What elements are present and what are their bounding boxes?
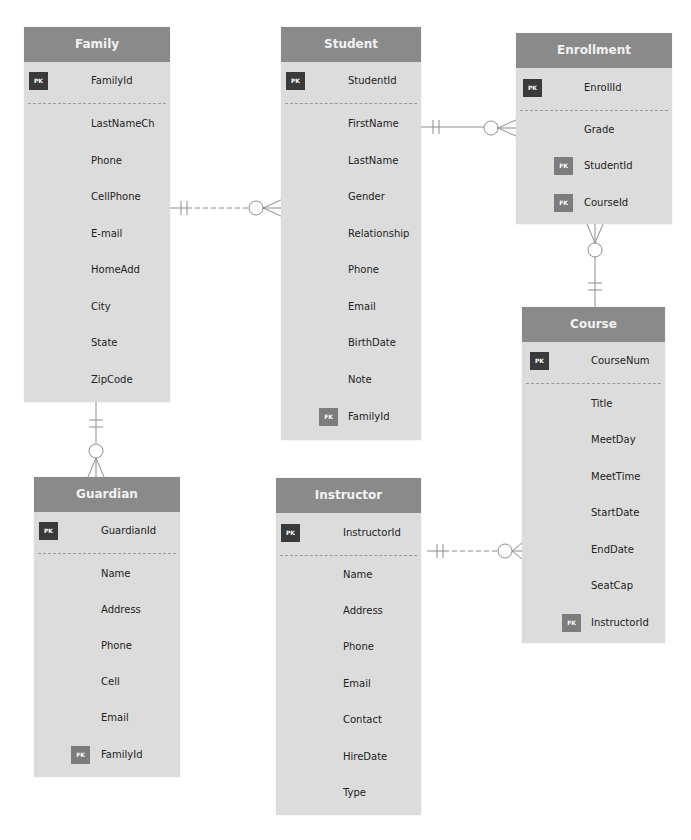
attribute-row: MeetDay: [522, 430, 665, 450]
fk-row: FK FamilyId: [281, 407, 421, 427]
entity-instructor[interactable]: Instructor PK InstructorId Name Address …: [276, 478, 421, 815]
attribute-row: City: [24, 297, 170, 317]
key-separator: [526, 383, 661, 384]
attribute-row: Gender: [281, 187, 421, 207]
attribute-name: SeatCap: [591, 576, 633, 596]
attribute-row: Title: [522, 394, 665, 414]
attribute-row: Phone: [276, 637, 421, 657]
relationship-student-enrollment: [421, 120, 516, 136]
pk-row: PK FamilyId: [24, 71, 170, 91]
attribute-row: Note: [281, 370, 421, 390]
entity-student[interactable]: Student PK StudentId FirstName LastName …: [281, 27, 421, 440]
attribute-name: Phone: [343, 637, 374, 657]
attribute-row: EndDate: [522, 540, 665, 560]
key-separator: [520, 110, 668, 111]
pk-field: EnrollId: [584, 78, 622, 98]
attribute-name: Gender: [348, 187, 385, 207]
relationship-family-student: [170, 200, 281, 216]
attribute-name: HireDate: [343, 747, 387, 767]
attribute-name: Contact: [343, 710, 382, 730]
pk-field: InstructorId: [343, 523, 401, 543]
pk-field: CourseNum: [591, 351, 649, 371]
fk-badge: FK: [554, 194, 573, 212]
attribute-name: Relationship: [348, 224, 409, 244]
attribute-name: Grade: [584, 120, 615, 140]
entity-family[interactable]: Family PK FamilyId LastNameCh Phone Cell…: [24, 27, 170, 402]
fk-row: FK StudentId: [516, 156, 672, 176]
attribute-name: Title: [591, 394, 612, 414]
attribute-row: Phone: [24, 151, 170, 171]
attribute-row: Type: [276, 783, 421, 803]
key-separator: [280, 555, 417, 556]
fk-row: FK InstructorId: [522, 613, 665, 633]
attribute-name: State: [91, 333, 117, 353]
attribute-name: Cell: [101, 672, 120, 692]
attribute-row: Address: [34, 600, 180, 620]
attribute-row: SeatCap: [522, 576, 665, 596]
attribute-name: LastNameCh: [91, 114, 155, 134]
attribute-name: Address: [343, 601, 383, 621]
attribute-name: Name: [101, 564, 131, 584]
attribute-name: Note: [348, 370, 372, 390]
attribute-name: StartDate: [591, 503, 639, 523]
fk-badge: FK: [319, 408, 338, 426]
attribute-name: Email: [343, 674, 371, 694]
fk-badge: FK: [562, 614, 581, 632]
entity-title: Course: [522, 307, 665, 342]
attribute-row: Email: [34, 708, 180, 728]
attribute-row: LastNameCh: [24, 114, 170, 134]
attribute-row: BirthDate: [281, 333, 421, 353]
attribute-row: HireDate: [276, 747, 421, 767]
attribute-row: Phone: [34, 636, 180, 656]
attribute-row: FirstName: [281, 114, 421, 134]
attribute-name: E-mail: [91, 224, 122, 244]
key-separator: [38, 553, 176, 554]
pk-badge: PK: [39, 522, 58, 540]
entity-enrollment[interactable]: Enrollment PK EnrollId Grade FK StudentI…: [516, 33, 672, 224]
fk-row: FK CourseId: [516, 193, 672, 213]
attribute-name: Phone: [101, 636, 132, 656]
attribute-row: Name: [276, 565, 421, 585]
attribute-name: Name: [343, 565, 373, 585]
attribute-row: HomeAdd: [24, 260, 170, 280]
fk-field: FamilyId: [101, 745, 142, 765]
fk-badge: FK: [554, 157, 573, 175]
attribute-row: Cell: [34, 672, 180, 692]
attribute-name: Address: [101, 600, 141, 620]
entity-title: Guardian: [34, 477, 180, 512]
relationship-instructor-course: [427, 543, 522, 559]
key-separator: [28, 103, 166, 104]
pk-row: PK CourseNum: [522, 351, 665, 371]
attribute-name: Email: [348, 297, 376, 317]
attribute-name: HomeAdd: [91, 260, 140, 280]
attribute-name: City: [91, 297, 111, 317]
attribute-row: Email: [276, 674, 421, 694]
relationship-family-guardian: [88, 402, 104, 477]
entity-guardian[interactable]: Guardian PK GuardianId Name Address Phon…: [34, 477, 180, 777]
attribute-name: MeetTime: [591, 467, 640, 487]
entity-title: Family: [24, 27, 170, 62]
pk-badge: PK: [530, 352, 549, 370]
attribute-row: StartDate: [522, 503, 665, 523]
pk-badge: PK: [286, 72, 305, 90]
entity-title: Student: [281, 27, 421, 62]
entity-title: Instructor: [276, 478, 421, 513]
attribute-row: CellPhone: [24, 187, 170, 207]
pk-row: PK GuardianId: [34, 521, 180, 541]
attribute-row: Phone: [281, 260, 421, 280]
pk-badge: PK: [29, 72, 48, 90]
attribute-name: Phone: [348, 260, 379, 280]
attribute-name: EndDate: [591, 540, 634, 560]
relationship-course-enrollment: [587, 224, 603, 307]
attribute-name: ZipCode: [91, 370, 133, 390]
attribute-name: CellPhone: [91, 187, 141, 207]
attribute-row: Name: [34, 564, 180, 584]
pk-field: GuardianId: [101, 521, 156, 541]
attribute-row: Email: [281, 297, 421, 317]
entity-course[interactable]: Course PK CourseNum Title MeetDay MeetTi…: [522, 307, 665, 643]
attribute-row: MeetTime: [522, 467, 665, 487]
attribute-row: State: [24, 333, 170, 353]
fk-row: FK FamilyId: [34, 745, 180, 765]
attribute-row: E-mail: [24, 224, 170, 244]
attribute-name: Email: [101, 708, 129, 728]
